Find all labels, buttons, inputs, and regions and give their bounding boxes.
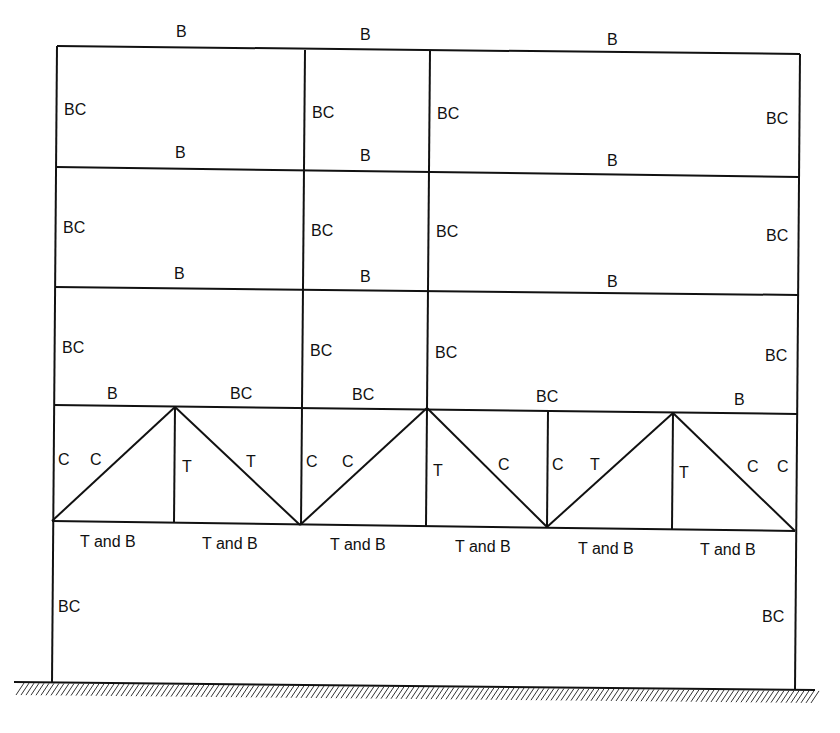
truss-diagonal xyxy=(52,407,175,521)
beam-label: B xyxy=(360,268,371,285)
column-label: BC xyxy=(64,101,86,118)
beam-label: B xyxy=(607,31,618,48)
chord-label: BC xyxy=(230,385,252,402)
web-label: C xyxy=(498,456,510,473)
web-label: T xyxy=(433,462,443,479)
web-label: C xyxy=(306,453,318,470)
web-label: T xyxy=(590,456,600,473)
interior-column-1 xyxy=(301,50,305,525)
truss-diagonal xyxy=(175,407,300,525)
beam-label: B xyxy=(176,23,187,40)
web-label: C xyxy=(777,458,789,475)
column-label: BC xyxy=(58,598,80,615)
column-label: BC xyxy=(437,105,459,122)
left-column xyxy=(52,46,57,683)
truss-diagonal xyxy=(300,408,427,525)
chord-label: T and B xyxy=(80,533,136,550)
truss-vertical xyxy=(547,411,548,527)
column-label: BC xyxy=(766,110,788,127)
web-label: T xyxy=(182,458,192,475)
column-label: BC xyxy=(312,104,334,121)
truss-vertical xyxy=(174,407,175,523)
beam-label: B xyxy=(607,152,618,169)
web-label: T xyxy=(679,464,689,481)
beam-label: B xyxy=(360,26,371,43)
column-label: BC xyxy=(762,608,784,625)
labels: B B B BC BC BC BC B B B BC BC BC BC B B … xyxy=(58,23,789,625)
web-label: C xyxy=(90,451,102,468)
chord-label: T and B xyxy=(202,535,258,552)
right-column xyxy=(795,54,800,690)
chord-label: B xyxy=(107,385,118,402)
ground-line xyxy=(14,682,815,690)
beam-label: B xyxy=(174,265,185,282)
column-label: BC xyxy=(63,219,85,236)
beam-label: B xyxy=(360,147,371,164)
chord-label: BC xyxy=(352,386,374,403)
chord-label: T and B xyxy=(700,541,756,558)
frame-diagram: B B B BC BC BC BC B B B BC BC BC BC B B … xyxy=(0,0,840,733)
chord-label: BC xyxy=(536,388,558,405)
chord-label: T and B xyxy=(330,536,386,553)
column-label: BC xyxy=(765,347,787,364)
chord-label: T and B xyxy=(455,538,511,555)
truss-bottom-chord xyxy=(52,521,795,531)
web-label: C xyxy=(58,451,70,468)
column-label: BC xyxy=(62,339,84,356)
truss-vertical xyxy=(426,408,427,526)
truss-diagonal xyxy=(547,413,673,527)
interior-column-2 xyxy=(427,51,430,408)
floor-beam-2 xyxy=(55,287,798,295)
web-label: C xyxy=(552,456,564,473)
column-label: BC xyxy=(435,344,457,361)
roof-beam xyxy=(57,46,800,54)
web-label: T xyxy=(246,453,256,470)
truss-diagonal xyxy=(427,408,547,527)
truss-vertical xyxy=(672,413,673,529)
beam-label: B xyxy=(607,273,618,290)
column-label: BC xyxy=(766,227,788,244)
beam-label: B xyxy=(175,144,186,161)
column-label: BC xyxy=(436,223,458,240)
column-label: BC xyxy=(311,222,333,239)
web-label: C xyxy=(342,453,354,470)
chord-label: T and B xyxy=(578,540,634,557)
chord-label: B xyxy=(734,391,745,408)
web-label: C xyxy=(747,458,759,475)
floor-beam-3 xyxy=(56,167,799,177)
column-label: BC xyxy=(310,342,332,359)
